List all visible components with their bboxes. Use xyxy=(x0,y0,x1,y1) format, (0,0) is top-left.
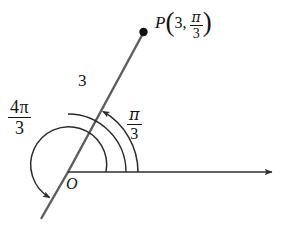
point-p-angle-fraction: π3 xyxy=(190,10,203,41)
polar-diagram: P(3, π3) 3 π3 4π3 O xyxy=(0,0,293,227)
point-p-close-paren: ) xyxy=(203,7,212,37)
terminal-ray xyxy=(68,33,144,173)
outer-angle-denominator: 3 xyxy=(8,118,31,137)
inner-angle-denominator: 3 xyxy=(127,125,142,142)
outer-angle-fraction: 4π3 xyxy=(8,98,31,137)
diagram-canvas xyxy=(0,0,293,227)
point-p-comma: , xyxy=(182,14,186,31)
point-p-dot xyxy=(139,28,147,36)
radius-length-label: 3 xyxy=(78,72,87,89)
outer-angle-numerator: 4π xyxy=(8,98,31,118)
outer-angle-label: 4π3 xyxy=(8,98,31,137)
inner-angle-fraction: π3 xyxy=(127,107,142,142)
point-p-label: P(3, π3) xyxy=(155,9,212,40)
point-p-name: P xyxy=(155,13,165,32)
origin-label: O xyxy=(66,176,78,192)
inner-angle-label: π3 xyxy=(127,107,142,142)
inner-angle-numerator: π xyxy=(127,107,142,125)
point-p-angle-numerator: π xyxy=(190,10,203,26)
point-p-open-paren: ( xyxy=(165,7,174,37)
point-p-angle-denominator: 3 xyxy=(190,26,203,41)
